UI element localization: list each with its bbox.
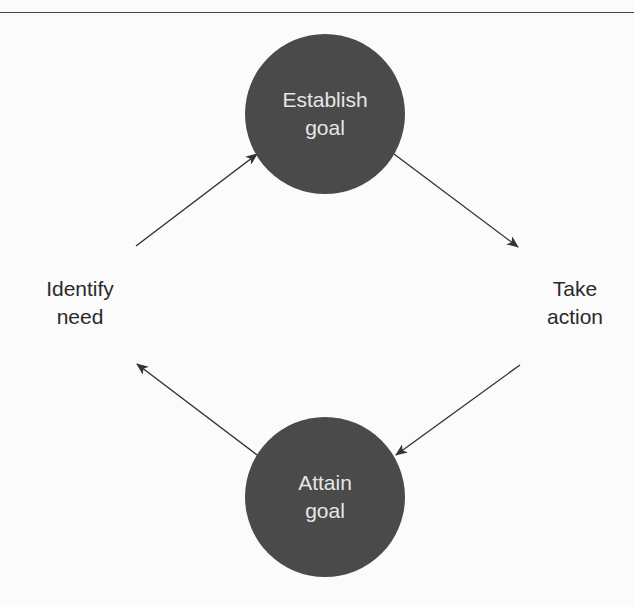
node-attain-goal-line2: goal <box>305 497 345 525</box>
arrow-establish-to-take-action <box>394 154 518 247</box>
node-establish-goal-line1: Establish <box>282 86 367 114</box>
node-attain-goal: Attain goal <box>245 417 405 577</box>
arrow-identify-to-establish <box>136 154 257 246</box>
arrow-take-action-to-attain <box>396 365 520 455</box>
node-establish-goal-line2: goal <box>305 114 345 142</box>
label-take-action: Take action <box>520 275 630 331</box>
node-attain-goal-line1: Attain <box>298 469 352 497</box>
label-identify-need-line2: need <box>25 303 135 331</box>
label-identify-need-line1: Identify <box>25 275 135 303</box>
label-take-action-line2: action <box>520 303 630 331</box>
node-establish-goal: Establish goal <box>245 34 405 194</box>
label-identify-need: Identify need <box>25 275 135 331</box>
arrow-attain-to-identify <box>137 364 257 455</box>
label-take-action-line1: Take <box>520 275 630 303</box>
